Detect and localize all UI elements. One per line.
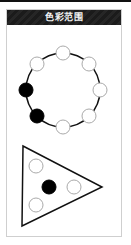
empty-node-right bbox=[67, 180, 81, 194]
empty-node-top-left bbox=[29, 159, 43, 173]
color-range-diagram bbox=[0, 0, 131, 245]
empty-node-top bbox=[56, 46, 70, 60]
filled-node-lower-left bbox=[30, 109, 44, 123]
empty-node-upper-right bbox=[82, 57, 96, 71]
filled-node-center bbox=[42, 180, 56, 194]
empty-node-bottom bbox=[56, 120, 70, 134]
empty-node-upper-left bbox=[30, 57, 44, 71]
filled-node-left bbox=[19, 83, 33, 97]
empty-node-right bbox=[93, 83, 107, 97]
color-ring-diagram bbox=[19, 46, 107, 134]
triangle-outline bbox=[22, 146, 102, 226]
empty-node-bottom-left bbox=[29, 198, 43, 212]
color-triangle-diagram bbox=[22, 146, 102, 226]
empty-node-lower-right bbox=[82, 109, 96, 123]
